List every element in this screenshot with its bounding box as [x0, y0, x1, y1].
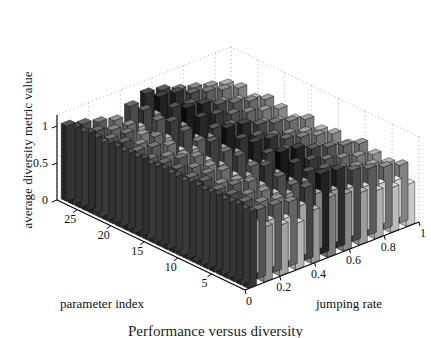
z-axis-ticks: 00.51 — [33, 119, 57, 207]
svg-text:20: 20 — [98, 228, 110, 242]
svg-text:10: 10 — [165, 260, 177, 274]
figure-caption: Performance versus diversity — [0, 322, 431, 338]
svg-text:0: 0 — [246, 294, 252, 308]
svg-text:0: 0 — [42, 193, 48, 207]
y-axis-label: jumping rate — [316, 296, 382, 312]
z-axis-label: average diversity metric value — [20, 60, 36, 240]
svg-text:25: 25 — [64, 212, 76, 226]
svg-text:0.8: 0.8 — [381, 240, 396, 254]
svg-text:0.6: 0.6 — [346, 253, 361, 267]
svg-text:0.4: 0.4 — [311, 267, 326, 281]
svg-text:15: 15 — [131, 244, 143, 258]
svg-text:5: 5 — [201, 276, 207, 290]
x-axis-label: parameter index — [60, 296, 144, 312]
svg-text:1: 1 — [420, 226, 426, 240]
plot-canvas: 00.5125201510500.20.40.60.81 — [0, 0, 431, 338]
figure-3d-bar-chart: 00.5125201510500.20.40.60.81 average div… — [0, 0, 431, 338]
bar-field — [61, 79, 415, 288]
svg-text:0.2: 0.2 — [276, 280, 291, 294]
svg-text:1: 1 — [42, 119, 48, 133]
